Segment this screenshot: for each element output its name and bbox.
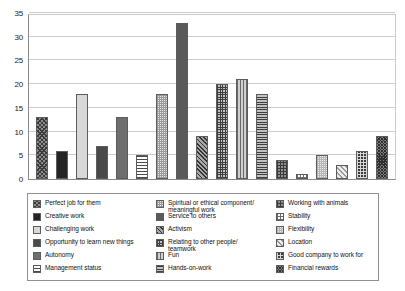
bar-slot [252,15,272,179]
legend-item-label: Opportunity to learn new things [45,237,133,246]
y-axis-tick-label: 25 [15,57,24,65]
legend-item[interactable]: Fun [156,250,274,263]
legend-item-label: Creative work [45,211,84,220]
legend-swatch-icon [156,265,164,273]
bar[interactable] [276,160,288,179]
legend-item[interactable]: Financial rewards [276,263,373,276]
legend-item[interactable]: Stability [276,211,373,224]
y-axis-tick-label: 30 [15,34,24,42]
bar[interactable] [356,151,368,179]
legend-item[interactable]: Good company to work for [276,250,373,263]
bar-series [29,15,395,179]
plot-wrapper: 05101520253035 [0,0,405,188]
legend-item-label: Stability [288,211,310,220]
legend-item[interactable]: Hands-on-work [156,263,274,276]
bar[interactable] [256,94,268,179]
legend-item-label: Financial rewards [288,263,338,272]
legend-swatch-icon [33,252,41,260]
legend-item-label: Fun [168,250,179,259]
bar[interactable] [96,146,108,179]
legend-swatch-icon [156,226,164,234]
legend-item-label: Perfect job for them [45,198,101,207]
legend-item[interactable]: Location [276,237,373,250]
bar-slot [372,15,392,179]
bar-slot [92,15,112,179]
bar[interactable] [156,94,168,179]
legend-item-label: Hands-on-work [168,263,211,272]
plot-area [28,14,396,180]
legend-item-label: Flexibility [288,224,314,233]
bar-slot [332,15,352,179]
legend-item[interactable]: Relating to other people/ teamwork [156,237,274,250]
y-axis-tick-label: 5 [19,152,23,160]
legend-item-label: Autonomy [45,250,74,259]
bar[interactable] [216,84,228,179]
bar[interactable] [296,174,308,179]
legend-swatch-icon [276,252,284,260]
bar-slot [292,15,312,179]
legend-column: Working with animalsStabilityFlexibility… [276,198,373,277]
legend-item[interactable]: Service to others [156,211,274,224]
chart-legend: Perfect job for themCreative workChallen… [27,193,379,281]
bar-slot [72,15,92,179]
y-axis-tick-label: 20 [15,81,24,89]
y-axis-tick-label: 35 [15,10,24,18]
legend-column: Perfect job for themCreative workChallen… [33,198,154,277]
legend-item-label: Activism [168,224,192,233]
bar[interactable] [336,165,348,179]
legend-item[interactable]: Creative work [33,211,154,224]
legend-swatch-icon [33,226,41,234]
legend-item[interactable]: Opportunity to learn new things [33,237,154,250]
bar-slot [52,15,72,179]
legend-item-label: Challenging work [45,224,94,233]
legend-item[interactable]: Activism [156,224,274,237]
y-axis-tick-label: 0 [19,176,23,184]
legend-swatch-icon [33,239,41,247]
bar-slot [232,15,252,179]
legend-swatch-icon [276,213,284,221]
bar[interactable] [56,151,68,179]
bar[interactable] [196,136,208,179]
legend-item-label: Service to others [168,211,216,220]
legend-item[interactable]: Management status [33,263,154,276]
bar[interactable] [316,155,328,179]
bar[interactable] [36,117,48,179]
bar-chart-figure: 05101520253035 Perfect job for themCreat… [0,0,405,291]
legend-item[interactable]: Spiritual or ethical component/ meaningf… [156,198,274,211]
legend-swatch-icon [276,265,284,273]
bar[interactable] [76,94,88,179]
legend-item-label: Good company to work for [288,250,363,259]
legend-swatch-icon [156,200,164,208]
legend-item-label: Management status [45,263,101,272]
bar-slot [272,15,292,179]
legend-swatch-icon [276,226,284,234]
legend-swatch-icon [156,213,164,221]
legend-item[interactable]: Working with animals [276,198,373,211]
bar-slot [312,15,332,179]
legend-swatch-icon [156,252,164,260]
legend-swatch-icon [276,200,284,208]
bar[interactable] [376,136,388,179]
bar[interactable] [176,23,188,180]
bar-slot [192,15,212,179]
y-axis-tick-label: 10 [15,129,24,137]
bar-slot [152,15,172,179]
bar-slot [112,15,132,179]
legend-item-label: Working with animals [288,198,348,207]
bar[interactable] [136,155,148,179]
legend-swatch-icon [33,200,41,208]
legend-item[interactable]: Autonomy [33,250,154,263]
legend-swatch-icon [33,213,41,221]
legend-item[interactable]: Challenging work [33,224,154,237]
legend-item[interactable]: Flexibility [276,224,373,237]
bar-slot [32,15,52,179]
bar-slot [352,15,372,179]
legend-swatch-icon [33,265,41,273]
bar-slot [212,15,232,179]
legend-item-label: Location [288,237,312,246]
y-axis: 05101520253035 [0,0,26,188]
bar[interactable] [116,117,128,179]
gridline [29,12,395,13]
legend-item[interactable]: Perfect job for them [33,198,154,211]
bar[interactable] [236,79,248,179]
